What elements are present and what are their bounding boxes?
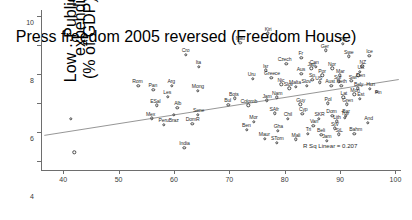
y-tick-label: 4 (30, 193, 34, 200)
data-point-label: Bar (342, 108, 349, 114)
data-point-label: Sp (309, 72, 315, 78)
data-point-label: Gha (274, 123, 283, 129)
x-tick (285, 170, 286, 174)
y-tick-label: 10 (26, 18, 34, 25)
data-point-label: Den (356, 72, 365, 78)
data-point-label: Braz (169, 117, 179, 123)
data-point-label: Ita (196, 59, 201, 65)
data-point-label: Chil (284, 111, 292, 117)
data-point-label: Bely (354, 81, 363, 87)
data-point-label: Nam (272, 90, 282, 96)
data-point-label: Isr (263, 63, 268, 69)
data-point-label: Greece (264, 70, 280, 76)
data-point-label: Mali (292, 132, 301, 138)
x-tick (395, 170, 396, 174)
data-point-label: Tri (306, 126, 311, 132)
data-point-label: Mon (350, 87, 359, 93)
data-point-label: Mong (192, 83, 204, 89)
data-point-label: Sene (193, 107, 204, 113)
data-point-label: Slov (302, 78, 311, 84)
data-point-label: Czech (278, 56, 292, 62)
x-tick-label: 100 (390, 176, 402, 183)
x-tick-label: 80 (281, 176, 289, 183)
data-point-label: India (179, 140, 189, 146)
data-point-label: Por (318, 68, 325, 74)
data-point-label: Les (163, 89, 171, 95)
data-point-label: Mor (249, 114, 257, 120)
r-squared-annotation: R Sq Linear = 0.207 (303, 142, 357, 149)
data-point-label: Swe (344, 49, 353, 55)
data-point-label: Lat (340, 90, 347, 96)
data-point-label: StL (336, 127, 343, 133)
x-axis-line (41, 170, 401, 171)
data-point-label: Ice (366, 48, 372, 54)
data-point-label: Swi (349, 74, 357, 80)
x-tick-label: 60 (170, 176, 178, 183)
data-point-label: Cro (182, 47, 190, 53)
data-point-label: Bul (224, 97, 231, 103)
x-tick (63, 170, 64, 174)
data-point-label: Neth (336, 78, 346, 84)
data-point-label: Aus (297, 66, 305, 72)
y-tick-label: 6 (30, 135, 34, 142)
x-tick-label: 90 (336, 176, 344, 183)
data-point-label: SAfr (269, 106, 278, 112)
data-point-label: Rom (132, 78, 142, 84)
data-point-label: Kiri (265, 26, 272, 32)
data-point-label: Bots (229, 91, 239, 97)
data-point-label: STom (271, 135, 283, 141)
data-point-label: Fr (298, 50, 303, 56)
data-point-label: Maur (259, 131, 270, 137)
data-point-label: Pol (325, 96, 332, 102)
data-point-label: Nor (328, 61, 336, 67)
data-point-label: Arg (168, 78, 175, 84)
data-point-label: Nau (236, 35, 245, 41)
data-point-label: Lith (333, 114, 341, 120)
x-tick (229, 170, 230, 174)
data-point-label: Aust (325, 78, 335, 84)
data-point-label: Alb (174, 100, 181, 106)
y-tick-label: 8 (30, 76, 34, 83)
data-point-label: Uru (248, 71, 256, 77)
data-point-label: Guy (296, 97, 305, 103)
data-point-label: Pal (340, 36, 347, 42)
data-point-label: Fin (375, 89, 382, 95)
data-point-label: Ben (242, 122, 251, 128)
data-point-label: Can (310, 59, 319, 65)
data-point-label: Ger (321, 43, 329, 49)
data-point-label: Pan (149, 82, 158, 88)
data-point-label: SKR (314, 111, 324, 117)
data-point-label: Mex (146, 111, 155, 117)
x-tick (119, 170, 120, 174)
scatter-chart: Low ··Public health expenditure (% of GD… (0, 0, 412, 220)
data-point-label: Hun (366, 81, 375, 87)
data-point-label: Jam (322, 133, 331, 139)
data-point-label: And (364, 115, 373, 121)
data-point-label: US (315, 75, 322, 81)
data-point-label: Bahm (349, 126, 362, 132)
data-point-label: DomR (186, 116, 200, 122)
x-tick-label: 70 (225, 176, 233, 183)
data-point-label: Van (310, 118, 318, 124)
data-point-label: UK (357, 64, 364, 70)
data-point-label: Cyp (299, 106, 308, 112)
x-tick-label: 40 (59, 176, 67, 183)
x-tick (340, 170, 341, 174)
x-tick-label: 50 (115, 176, 123, 183)
data-point-label: ESal (150, 98, 160, 104)
x-tick (174, 170, 175, 174)
data-point-label: Peru (158, 117, 168, 123)
data-point-label: Jam (262, 93, 271, 99)
data-point-label: Slov (284, 81, 293, 87)
data-point-label: Colomb (240, 98, 257, 104)
data-point-label: Beli (317, 127, 325, 133)
